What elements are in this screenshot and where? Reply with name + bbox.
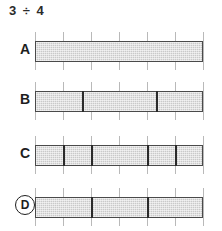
bar-model-d [35, 188, 203, 226]
bar-divider-3 [175, 145, 177, 166]
bar-divider-2 [147, 145, 149, 166]
tick-guide-6 [203, 136, 204, 174]
bar-divider-0 [63, 145, 65, 166]
bar-rectangle [35, 145, 203, 166]
answer-choice-d[interactable]: D [0, 186, 222, 228]
choice-label-selected-d[interactable]: D [15, 195, 35, 215]
choice-label-a[interactable]: A [14, 41, 36, 57]
choice-label-b[interactable]: B [14, 91, 36, 107]
answer-choice-c[interactable]: C [0, 134, 222, 176]
bar-rectangle [35, 41, 203, 62]
tick-guide-6 [203, 188, 204, 226]
tick-guide-6 [203, 82, 204, 120]
choice-label-c[interactable]: C [14, 145, 36, 161]
bar-rectangle [35, 197, 203, 218]
bar-model-a [35, 32, 203, 70]
bar-divider-0 [91, 197, 93, 218]
answer-choice-b[interactable]: B [0, 80, 222, 122]
bar-divider-0 [82, 91, 84, 112]
bar-divider-1 [156, 91, 158, 112]
bar-model-c [35, 136, 203, 174]
bar-divider-1 [91, 145, 93, 166]
tick-guide-6 [203, 32, 204, 70]
bar-divider-1 [147, 197, 149, 218]
worksheet: 3 ÷ 4 ABCD [0, 0, 222, 231]
bar-rectangle [35, 91, 203, 112]
problem-expression: 3 ÷ 4 [9, 3, 45, 18]
answer-choice-a[interactable]: A [0, 30, 222, 72]
bar-model-b [35, 82, 203, 120]
